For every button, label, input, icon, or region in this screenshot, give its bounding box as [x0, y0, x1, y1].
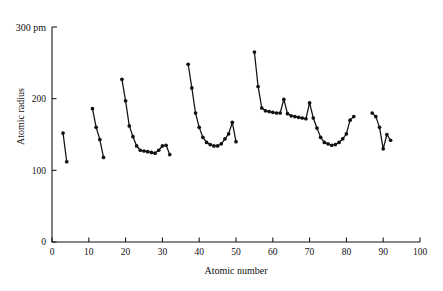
data-point [219, 142, 223, 146]
data-point [337, 141, 341, 145]
data-point [260, 106, 264, 110]
data-point [138, 148, 142, 152]
data-point [381, 147, 385, 151]
y-axis-title: Atomic radius [15, 88, 26, 145]
data-point [65, 160, 69, 164]
data-point [267, 110, 271, 114]
data-point [146, 150, 150, 154]
data-point [378, 125, 382, 129]
data-point [131, 135, 135, 139]
data-point [330, 143, 334, 147]
chart-canvas: 0100200300 pm0102030405060708090100Atomi… [0, 0, 443, 291]
data-point [157, 148, 161, 152]
data-point [94, 125, 98, 129]
data-point [98, 138, 102, 142]
data-point [389, 138, 393, 142]
data-point [194, 111, 198, 115]
data-point [275, 111, 279, 115]
series-line-period-3 [92, 109, 103, 158]
data-point [91, 107, 95, 111]
data-point [150, 151, 154, 155]
data-point [124, 99, 128, 103]
data-point [286, 112, 290, 116]
data-point [168, 153, 172, 157]
data-point [216, 144, 220, 148]
x-tick-label: 80 [342, 247, 352, 257]
data-point [208, 143, 212, 147]
x-tick-label: 100 [413, 247, 428, 257]
series-line-period-2 [63, 133, 67, 162]
axis-lines [52, 27, 420, 242]
data-point [234, 140, 238, 144]
x-tick-label: 30 [158, 247, 168, 257]
data-point [334, 143, 338, 147]
data-point [348, 118, 352, 122]
data-point [227, 132, 231, 136]
data-point [282, 98, 286, 102]
data-point [293, 115, 297, 119]
y-tick-label: 0 [41, 237, 46, 247]
data-point [212, 144, 216, 148]
data-point [164, 143, 168, 147]
series-line-period-7 [372, 113, 390, 149]
data-point [341, 137, 345, 141]
data-point [345, 132, 349, 136]
x-tick-label: 0 [50, 247, 55, 257]
data-point [161, 144, 165, 148]
data-point [308, 101, 312, 105]
data-point [300, 116, 304, 120]
data-point [370, 111, 374, 115]
data-point [197, 125, 201, 129]
y-tick-label: 100 [32, 166, 47, 176]
x-axis-title: Atomic number [204, 265, 268, 276]
data-point [311, 116, 315, 120]
data-point [322, 141, 326, 145]
data-point [326, 142, 330, 146]
data-point [230, 120, 234, 124]
series-line-period-4 [122, 79, 170, 154]
data-point [186, 62, 190, 66]
x-tick-label: 20 [121, 247, 131, 257]
data-point [120, 77, 124, 81]
data-point [256, 85, 260, 89]
data-point [278, 111, 282, 115]
y-axis-unit-label: 300 pm [16, 22, 47, 33]
series-line-period-6 [254, 52, 353, 145]
x-tick-label: 50 [231, 247, 241, 257]
x-tick-label: 60 [268, 247, 278, 257]
data-point [289, 114, 293, 118]
data-point [319, 136, 323, 140]
data-point [264, 109, 268, 113]
data-point [142, 149, 146, 153]
x-tick-label: 10 [84, 247, 94, 257]
data-point [61, 131, 65, 135]
data-point [135, 144, 139, 148]
data-point [297, 115, 301, 119]
x-tick-label: 40 [194, 247, 204, 257]
data-point [385, 133, 389, 137]
data-point [190, 86, 194, 90]
data-point [205, 141, 209, 145]
data-point [304, 117, 308, 121]
data-point [253, 50, 257, 54]
data-point [352, 115, 356, 119]
x-tick-label: 90 [378, 247, 388, 257]
y-tick-label: 200 [32, 94, 47, 104]
atomic-radius-chart: 0100200300 pm0102030405060708090100Atomi… [0, 0, 443, 291]
data-point [223, 137, 227, 141]
data-point [315, 126, 319, 130]
data-point [201, 136, 205, 140]
data-point [127, 124, 131, 128]
data-point [271, 110, 275, 114]
data-point [102, 156, 106, 160]
data-point [374, 115, 378, 119]
data-point [153, 151, 157, 155]
x-tick-label: 70 [305, 247, 315, 257]
